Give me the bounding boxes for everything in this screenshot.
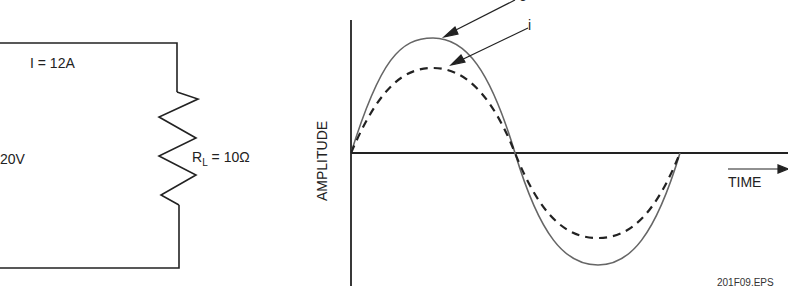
- resistor-label: RL = 10Ω: [192, 149, 250, 168]
- voltage-label: 20V: [0, 151, 25, 167]
- diagram-canvas: [0, 0, 788, 296]
- circuit: [0, 43, 198, 268]
- current-label: I = 12A: [30, 55, 75, 71]
- time-arrowhead-icon: [778, 165, 788, 173]
- voltage-arrowhead-icon: [444, 27, 458, 37]
- circuit-wire-top: [0, 43, 177, 92]
- x-axis-label: TIME: [728, 174, 761, 190]
- y-axis-label: AMPLITUDE: [314, 121, 330, 201]
- current-arrow: [455, 28, 528, 63]
- current-arrowhead-icon: [451, 55, 465, 65]
- waveform-axes: [351, 20, 788, 286]
- voltage-series-label: e: [519, 0, 527, 4]
- figure-id: 201F09.EPS: [717, 277, 774, 288]
- circuit-wire-bottom: [0, 205, 179, 268]
- annotation-arrows: [444, 0, 788, 173]
- current-series-label: i: [528, 17, 531, 33]
- resistor-label-value: = 10Ω: [208, 149, 250, 165]
- voltage-waveform: [351, 38, 680, 265]
- voltage-arrow: [448, 0, 515, 34]
- resistor-label-main: R: [192, 149, 202, 165]
